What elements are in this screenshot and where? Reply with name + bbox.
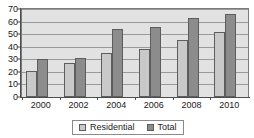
bar-chart: 706050403020100 200020022004200620082010…	[0, 0, 254, 138]
bar-group	[173, 9, 211, 97]
legend-item-residential[interactable]: Residential	[79, 122, 135, 132]
bar-group	[60, 9, 98, 97]
x-tick-label-2008: 2008	[181, 100, 201, 111]
legend-swatch-residential-icon	[79, 124, 86, 131]
bar-residential-2000[interactable]	[26, 71, 37, 97]
bar-total-2008[interactable]	[188, 18, 199, 97]
x-tick-mark-2006	[135, 97, 136, 100]
bar-total-2004[interactable]	[112, 29, 123, 97]
y-tick-mark-50	[17, 34, 21, 35]
bars-layer	[22, 9, 248, 97]
bar-group	[135, 9, 173, 97]
x-tick-label-2002: 2002	[68, 100, 88, 111]
bar-total-2000[interactable]	[37, 59, 48, 97]
y-tick-mark-0	[17, 97, 21, 98]
bar-group	[210, 9, 248, 97]
legend-label-total: Total	[158, 122, 177, 132]
bar-residential-2010[interactable]	[214, 32, 225, 97]
y-tick-mark-20	[17, 72, 21, 73]
x-tick-label-2000: 2000	[31, 100, 51, 111]
y-tick-mark-40	[17, 47, 21, 48]
x-tick-label-2006: 2006	[144, 100, 164, 111]
bar-total-2006[interactable]	[150, 27, 161, 97]
legend-swatch-total-icon	[147, 124, 154, 131]
y-tick-mark-30	[17, 59, 21, 60]
y-tick-mark-60	[17, 22, 21, 23]
x-tick-mark-2002	[60, 97, 61, 100]
bar-residential-2004[interactable]	[101, 53, 112, 97]
bar-residential-2006[interactable]	[139, 49, 150, 97]
chart-legend: Residential Total	[72, 120, 184, 135]
legend-label-residential: Residential	[90, 122, 135, 132]
x-axis: 200020022004200620082010	[21, 99, 249, 113]
bar-total-2010[interactable]	[225, 14, 236, 97]
bar-residential-2002[interactable]	[64, 63, 75, 97]
bar-total-2002[interactable]	[75, 58, 86, 97]
x-tick-mark-2010	[210, 97, 211, 100]
x-tick-label-2004: 2004	[106, 100, 126, 111]
bar-group	[22, 9, 60, 97]
x-tick-mark-2000	[22, 97, 23, 100]
y-tick-mark-70	[17, 9, 21, 10]
x-tick-mark-2004	[97, 97, 98, 100]
x-tick-label-2010: 2010	[219, 100, 239, 111]
y-tick-mark-10	[17, 84, 21, 85]
x-tick-mark-2008	[173, 97, 174, 100]
legend-item-total[interactable]: Total	[147, 122, 177, 132]
y-axis: 706050403020100	[0, 0, 21, 99]
bar-group	[97, 9, 135, 97]
bar-residential-2008[interactable]	[177, 40, 188, 97]
